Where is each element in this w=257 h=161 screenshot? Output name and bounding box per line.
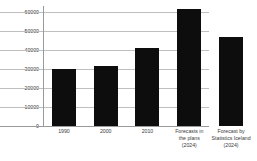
bar-2000 <box>94 66 118 126</box>
x-tick-label-forecast-statistics-iceland: Forecast by Statistics Iceland (2024) <box>206 128 256 150</box>
bar-slot-forecast-statistics-iceland <box>210 0 252 126</box>
x-tick-label-2000: 2000 <box>85 128 127 135</box>
gridline-0 <box>0 126 209 127</box>
x-tick-label-2010: 2010 <box>127 128 169 135</box>
bar-2010 <box>135 48 159 126</box>
bar-slot-1990 <box>43 0 85 126</box>
bar-slot-2010 <box>127 0 169 126</box>
bar-1990 <box>52 69 76 126</box>
x-axis-labels: 1990 2000 2010 Forecasts in the plans (2… <box>43 128 252 161</box>
bar-chart: 60000 50000 40000 30000 20000 10000 0 <box>0 0 257 161</box>
bar-forecast-statistics-iceland <box>219 37 243 126</box>
bar-slot-forecasts-in-plans <box>168 0 210 126</box>
y-axis-labels: 60000 50000 40000 30000 20000 10000 0 <box>0 0 39 161</box>
bar-series <box>43 0 252 126</box>
bar-forecasts-in-plans <box>177 9 201 126</box>
bar-slot-2000 <box>85 0 127 126</box>
x-tick-label-1990: 1990 <box>43 128 85 135</box>
